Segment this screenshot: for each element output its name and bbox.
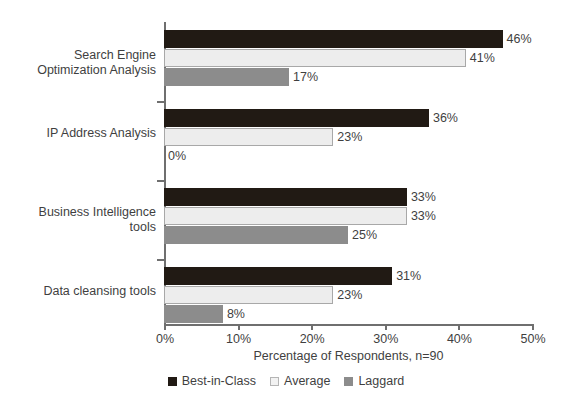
category-label-1: IP Address Analysis bbox=[0, 126, 156, 141]
bar-value-label: 0% bbox=[164, 149, 186, 163]
y-axis-tick bbox=[157, 180, 164, 182]
legend-item-best-in-class: Best-in-Class bbox=[168, 374, 256, 388]
bar-row: 17% bbox=[164, 68, 532, 86]
x-axis-tick-label: 50% bbox=[520, 332, 545, 346]
bar-group: 46%41%17% bbox=[164, 30, 532, 86]
x-axis-tick bbox=[311, 324, 313, 330]
bar-value-label: 23% bbox=[333, 288, 362, 302]
bar bbox=[164, 267, 392, 285]
bar-value-label: 33% bbox=[407, 209, 436, 223]
bar bbox=[164, 188, 407, 206]
y-axis-tick bbox=[157, 259, 164, 261]
bar-chart: Search Engine Optimization Analysis IP A… bbox=[0, 0, 572, 401]
bar-value-label: 31% bbox=[392, 269, 421, 283]
bar bbox=[164, 286, 333, 304]
bar bbox=[164, 305, 223, 323]
x-axis-line bbox=[164, 324, 533, 326]
x-axis-tick-label: 20% bbox=[300, 332, 325, 346]
legend-label-laggard: Laggard bbox=[358, 374, 404, 388]
bar bbox=[164, 226, 348, 244]
y-axis-tick bbox=[157, 101, 164, 103]
bar-group: 33%33%25% bbox=[164, 188, 532, 244]
category-label-0-line-0: Search Engine bbox=[0, 48, 156, 63]
x-axis-tick-label: 0% bbox=[156, 332, 174, 346]
category-label-0-line-1: Optimization Analysis bbox=[0, 63, 156, 78]
category-label-1-line-0: IP Address Analysis bbox=[0, 126, 156, 141]
bar bbox=[164, 49, 466, 67]
bar-group: 31%23%8% bbox=[164, 267, 532, 323]
category-label-3: Data cleansing tools bbox=[0, 284, 156, 299]
category-label-0: Search Engine Optimization Analysis bbox=[0, 48, 156, 78]
bar-row: 25% bbox=[164, 226, 532, 244]
bar bbox=[164, 207, 407, 225]
bar-row: 0% bbox=[164, 147, 532, 165]
x-axis-tick bbox=[532, 324, 534, 330]
bar-value-label: 41% bbox=[466, 51, 495, 65]
x-axis-tick bbox=[458, 324, 460, 330]
bar-row: 36% bbox=[164, 109, 532, 127]
bar-row: 8% bbox=[164, 305, 532, 323]
x-axis-tick-label: 10% bbox=[226, 332, 251, 346]
bar-row: 33% bbox=[164, 207, 532, 225]
category-label-2-line-1: tools bbox=[0, 220, 156, 235]
x-axis-tick-label: 30% bbox=[373, 332, 398, 346]
bar-value-label: 33% bbox=[407, 190, 436, 204]
legend-swatch-laggard bbox=[344, 377, 353, 386]
x-axis-tick bbox=[164, 324, 166, 330]
bar-row: 23% bbox=[164, 128, 532, 146]
bar bbox=[164, 109, 429, 127]
bar-value-label: 17% bbox=[289, 70, 318, 84]
x-axis-tick bbox=[238, 324, 240, 330]
bar-value-label: 8% bbox=[223, 307, 245, 321]
category-label-2-line-0: Business Intelligence bbox=[0, 205, 156, 220]
x-axis-title: Percentage of Respondents, n=90 bbox=[164, 349, 533, 363]
legend-label-average: Average bbox=[284, 374, 330, 388]
legend-item-laggard: Laggard bbox=[344, 374, 404, 388]
bar-value-label: 25% bbox=[348, 228, 377, 242]
legend-item-average: Average bbox=[270, 374, 330, 388]
legend-swatch-average bbox=[270, 377, 279, 386]
legend-label-best-in-class: Best-in-Class bbox=[182, 374, 256, 388]
legend-swatch-best-in-class bbox=[168, 377, 177, 386]
bar-value-label: 46% bbox=[503, 32, 532, 46]
bar bbox=[164, 128, 333, 146]
x-axis-tick bbox=[385, 324, 387, 330]
plot-area: 46%41%17%36%23%0%33%33%25%31%23%8% bbox=[164, 22, 532, 324]
bar-row: 41% bbox=[164, 49, 532, 67]
bar-group: 36%23%0% bbox=[164, 109, 532, 165]
bar-row: 31% bbox=[164, 267, 532, 285]
category-label-2: Business Intelligence tools bbox=[0, 205, 156, 235]
bar-value-label: 23% bbox=[333, 130, 362, 144]
chart-legend: Best-in-Class Average Laggard bbox=[0, 374, 572, 388]
bar bbox=[164, 68, 289, 86]
bar-value-label: 36% bbox=[429, 111, 458, 125]
x-axis-tick-label: 40% bbox=[447, 332, 472, 346]
bar-row: 46% bbox=[164, 30, 532, 48]
bar-row: 23% bbox=[164, 286, 532, 304]
category-label-3-line-0: Data cleansing tools bbox=[0, 284, 156, 299]
bar bbox=[164, 30, 503, 48]
bar-row: 33% bbox=[164, 188, 532, 206]
